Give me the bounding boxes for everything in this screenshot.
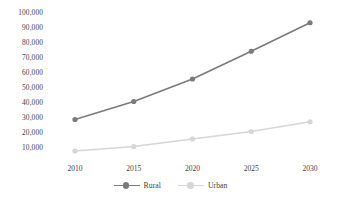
x-axis-tick-label: 2030 — [290, 164, 330, 173]
legend-label: Rural — [144, 181, 161, 190]
x-axis: 20102015202020252030 — [0, 0, 341, 201]
x-axis-tick-label: 2025 — [231, 164, 271, 173]
x-axis-tick-label: 2015 — [114, 164, 154, 173]
legend-swatch-icon — [114, 182, 140, 190]
legend-item-urban[interactable]: Urban — [178, 181, 228, 190]
line-chart: 100,00090,00080,00070,00060,00050,00040,… — [0, 0, 341, 201]
legend-swatch-icon — [178, 182, 204, 190]
chart-legend: RuralUrban — [0, 181, 341, 190]
x-axis-tick-label: 2020 — [173, 164, 213, 173]
legend-item-rural[interactable]: Rural — [114, 181, 161, 190]
legend-label: Urban — [208, 181, 228, 190]
x-axis-tick-label: 2010 — [55, 164, 95, 173]
